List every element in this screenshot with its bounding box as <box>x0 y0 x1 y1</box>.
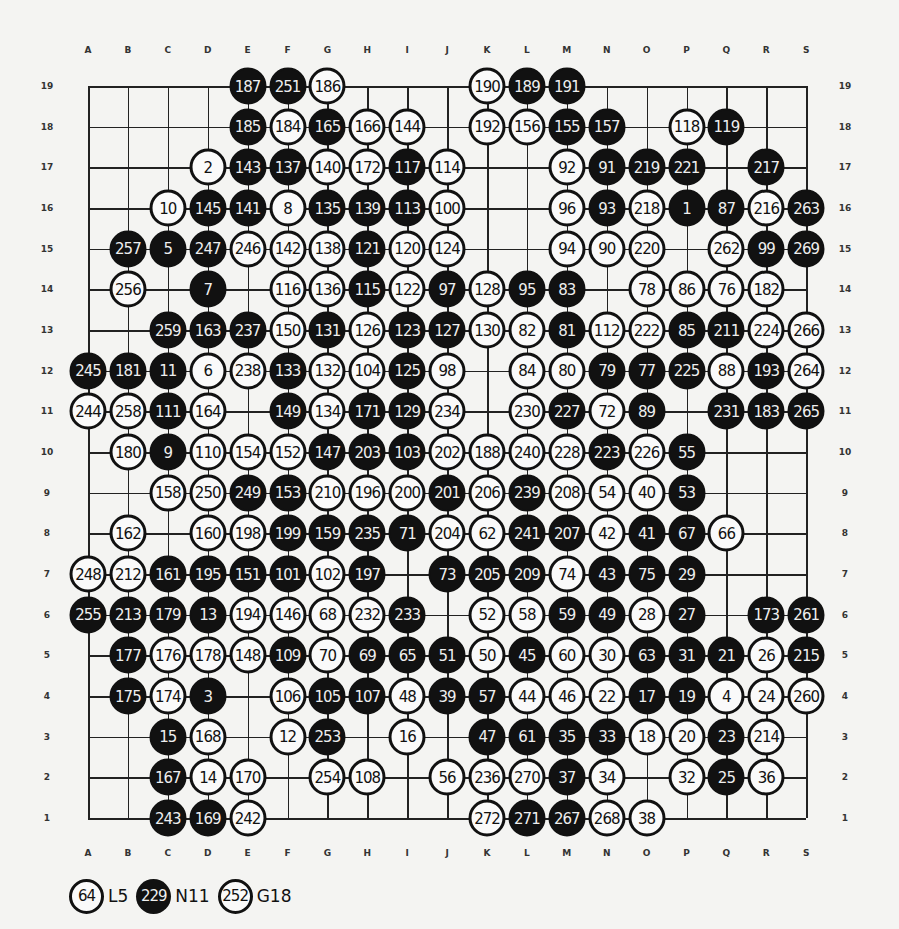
black-stone: 211 <box>708 312 745 349</box>
column-label: L <box>524 45 530 55</box>
white-stone: 42 <box>588 515 625 552</box>
black-stone: 71 <box>389 515 426 552</box>
black-stone: 3 <box>189 678 226 715</box>
black-stone: 185 <box>229 108 266 145</box>
black-stone: 205 <box>469 556 506 593</box>
white-stone: 232 <box>349 596 386 633</box>
column-label: C <box>164 45 171 55</box>
white-stone: 156 <box>508 108 545 145</box>
black-stone: 193 <box>748 352 785 389</box>
white-stone: 12 <box>269 718 306 755</box>
black-stone: 207 <box>548 515 585 552</box>
black-stone: 17 <box>628 678 665 715</box>
white-stone: 40 <box>628 474 665 511</box>
white-stone: 154 <box>229 434 266 471</box>
black-stone: 111 <box>149 393 186 430</box>
black-stone: 271 <box>508 800 545 837</box>
black-stone: 145 <box>189 190 226 227</box>
row-label: 19 <box>41 81 54 91</box>
white-stone: 16 <box>389 718 426 755</box>
white-stone: 18 <box>628 718 665 755</box>
row-label: 9 <box>842 488 848 498</box>
row-label: 6 <box>44 610 50 620</box>
white-stone: 188 <box>469 434 506 471</box>
go-board-diagram: AABBCCDDEEFFGGHHIIJJKKLLMMNNOOPPQQRRSS19… <box>0 0 899 929</box>
white-stone: 114 <box>429 149 466 186</box>
white-stone: 228 <box>548 434 585 471</box>
column-label: D <box>204 45 211 55</box>
white-stone: 26 <box>748 637 785 674</box>
white-stone: 202 <box>429 434 466 471</box>
white-stone: 56 <box>429 759 466 796</box>
row-label: 7 <box>44 569 50 579</box>
row-label: 3 <box>842 732 848 742</box>
black-stone: 45 <box>508 637 545 674</box>
white-stone: 96 <box>548 190 585 227</box>
black-stone: 39 <box>429 678 466 715</box>
column-label: K <box>484 848 491 858</box>
row-label: 10 <box>41 447 54 457</box>
black-stone: 109 <box>269 637 306 674</box>
black-stone: 75 <box>628 556 665 593</box>
black-stone: 73 <box>429 556 466 593</box>
black-stone: 47 <box>469 718 506 755</box>
black-stone: 191 <box>548 68 585 105</box>
black-stone: 181 <box>109 352 146 389</box>
white-stone: 192 <box>469 108 506 145</box>
black-stone: 43 <box>588 556 625 593</box>
row-label: 13 <box>839 325 852 335</box>
white-stone: 242 <box>229 800 266 837</box>
black-stone: 137 <box>269 149 306 186</box>
black-stone: 147 <box>309 434 346 471</box>
white-stone: 130 <box>469 312 506 349</box>
legend-stone-white: 252 <box>218 879 253 914</box>
black-stone: 257 <box>109 230 146 267</box>
black-stone: 251 <box>269 68 306 105</box>
row-label: 11 <box>41 406 54 416</box>
white-stone: 144 <box>389 108 426 145</box>
column-label: I <box>406 45 409 55</box>
black-stone: 51 <box>429 637 466 674</box>
white-stone: 66 <box>708 515 745 552</box>
black-stone: 239 <box>508 474 545 511</box>
black-stone: 81 <box>548 312 585 349</box>
row-label: 1 <box>44 813 50 823</box>
black-stone: 77 <box>628 352 665 389</box>
column-label: I <box>406 848 409 858</box>
black-stone: 195 <box>189 556 226 593</box>
black-stone: 27 <box>668 596 705 633</box>
legend-stone-black: 229 <box>136 879 171 914</box>
row-label: 2 <box>842 772 848 782</box>
row-label: 14 <box>41 284 54 294</box>
white-stone: 128 <box>469 271 506 308</box>
black-stone: 159 <box>309 515 346 552</box>
black-stone: 187 <box>229 68 266 105</box>
black-stone: 245 <box>70 352 107 389</box>
row-label: 15 <box>839 244 852 254</box>
black-stone: 35 <box>548 718 585 755</box>
column-label: A <box>85 45 92 55</box>
move-legend: 64 L5 229 N11 252 G18 <box>69 876 295 916</box>
black-stone: 7 <box>189 271 226 308</box>
row-label: 12 <box>839 366 852 376</box>
white-stone: 194 <box>229 596 266 633</box>
black-stone: 95 <box>508 271 545 308</box>
black-stone: 11 <box>149 352 186 389</box>
black-stone: 153 <box>269 474 306 511</box>
white-stone: 158 <box>149 474 186 511</box>
black-stone: 29 <box>668 556 705 593</box>
white-stone: 104 <box>349 352 386 389</box>
white-stone: 248 <box>70 556 107 593</box>
black-stone: 85 <box>668 312 705 349</box>
column-label: G <box>324 848 331 858</box>
black-stone: 131 <box>309 312 346 349</box>
white-stone: 178 <box>189 637 226 674</box>
column-label: H <box>364 848 372 858</box>
white-stone: 86 <box>668 271 705 308</box>
black-stone: 53 <box>668 474 705 511</box>
column-label: F <box>284 848 290 858</box>
white-stone: 174 <box>149 678 186 715</box>
black-stone: 59 <box>548 596 585 633</box>
white-stone: 254 <box>309 759 346 796</box>
white-stone: 180 <box>109 434 146 471</box>
